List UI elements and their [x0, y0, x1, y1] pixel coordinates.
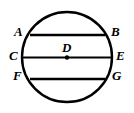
circle-diagram-svg: [0, 0, 134, 113]
point-label-b: B: [111, 25, 120, 38]
point-label-g: G: [112, 69, 121, 82]
point-label-d: D: [62, 41, 71, 54]
geometry-figure: A B C D E F G: [0, 0, 134, 113]
point-label-a: A: [14, 25, 23, 38]
point-label-f: F: [13, 69, 22, 82]
point-label-c: C: [9, 49, 18, 62]
point-label-e: E: [116, 49, 125, 62]
center-point-dot: [65, 55, 69, 59]
